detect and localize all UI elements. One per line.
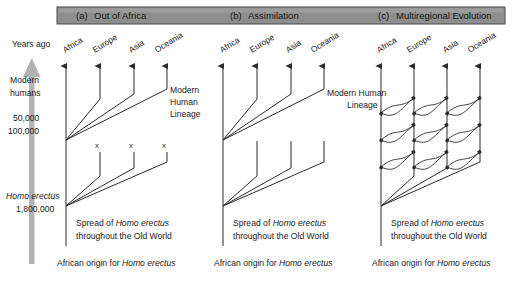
panel-b-region-labels: Africa Europe Asia Oceania <box>218 30 341 55</box>
panel-c-origin-italic: Homo erectus <box>437 258 491 268</box>
svg-text:Spread of Homo erectus: Spread of Homo erectus <box>391 218 485 228</box>
panel-a-lineage-line2: Human <box>170 97 198 107</box>
panel-b-lineage-line2: Lineage <box>347 100 378 110</box>
region-label-africa: Africa <box>218 35 242 55</box>
region-label-africa: Africa <box>61 35 85 55</box>
extinction-x-asia: x <box>129 141 133 150</box>
panel-b: Africa Europe Asia Oceania Modern Human … <box>214 30 386 268</box>
panel-c-origin-caption: African origin for Homo erectus <box>372 258 491 268</box>
panel-b-origin-caption: African origin for Homo erectus <box>214 258 333 268</box>
panel-header-bar: (a) Out of Africa (b) Assimilation (c) M… <box>57 7 505 24</box>
panel-a-spread-line2: throughout the Old World <box>76 231 172 241</box>
panel-b-spread-caption: Spread of Homo erectus throughout the Ol… <box>233 218 329 241</box>
panel-a-origin-roman: African origin for <box>57 258 122 268</box>
svg-text:Spread of Homo erectus: Spread of Homo erectus <box>233 218 327 228</box>
panel-b-origin-roman: African origin for <box>214 258 279 268</box>
panel-a-lineage-line1: Modern <box>170 85 199 95</box>
panel-a-region-labels: Africa Europe Asia Oceania <box>61 30 185 55</box>
panel-b-modern-lineages <box>223 66 324 140</box>
panel-a-tag: (a) <box>76 10 88 21</box>
panel-c-spread-line2: throughout the Old World <box>391 231 487 241</box>
region-label-oceania: Oceania <box>153 30 185 55</box>
panel-b-erectus-branches <box>223 141 324 206</box>
homo-erectus-label: Homo erectus <box>6 191 60 201</box>
panel-c-spread-italic: Homo erectus <box>431 218 485 228</box>
panel-b-tag: (b) <box>230 10 242 21</box>
panel-b-spread-roman: Spread of <box>233 218 273 228</box>
panel-c: Africa Europe Asia Oceania <box>372 30 498 268</box>
time-axis: Years ago Modern humans 50,000 100,000 H… <box>6 39 60 264</box>
panel-a-title: Out of Africa <box>94 10 147 21</box>
panel-a-spread-caption: Spread of Homo erectus throughout the Ol… <box>76 218 172 241</box>
panel-a-spread-italic: Homo erectus <box>116 218 170 228</box>
panel-b-spread-italic: Homo erectus <box>273 218 327 228</box>
region-label-oceania: Oceania <box>309 30 341 55</box>
panel-b-lineage-annotation: Modern Human Lineage <box>327 88 386 110</box>
extinction-x-oceania: x <box>162 141 166 150</box>
panel-b-title: Assimilation <box>248 10 299 21</box>
modern-humans-label-line1: Modern <box>10 75 39 85</box>
panel-a-spread-roman: Spread of <box>76 218 116 228</box>
region-label-africa: Africa <box>375 35 399 55</box>
region-label-europe: Europe <box>248 32 276 55</box>
region-label-oceania: Oceania <box>466 30 498 55</box>
region-label-asia: Asia <box>441 37 460 54</box>
panel-a-modern-lineages <box>66 66 167 140</box>
panel-c-spread-caption: Spread of Homo erectus throughout the Ol… <box>391 218 487 241</box>
panel-c-spread-roman: Spread of <box>391 218 431 228</box>
erectus-date-1800000: 1,800,000 <box>16 204 54 214</box>
panel-b-lineage-line1: Modern Human <box>327 88 386 98</box>
panel-a: Africa Europe Asia Oceania x x x M <box>57 30 201 268</box>
svg-text:Spread of Homo erectus: Spread of Homo erectus <box>76 218 170 228</box>
panel-a-erectus-branches <box>66 152 167 206</box>
region-label-europe: Europe <box>91 32 119 55</box>
extinction-x-europe: x <box>95 141 99 150</box>
region-label-asia: Asia <box>284 37 303 54</box>
panel-c-tag: (c) <box>378 10 389 21</box>
panel-b-origin-italic: Homo erectus <box>279 258 333 268</box>
panel-c-origin-roman: African origin for <box>372 258 437 268</box>
axis-title: Years ago <box>12 39 51 49</box>
panel-a-origin-italic: Homo erectus <box>122 258 176 268</box>
panel-a-lineage-line3: Lineage <box>170 109 201 119</box>
panel-a-extinction-marks: x x x <box>95 141 166 150</box>
panel-c-region-labels: Africa Europe Asia Oceania <box>375 30 498 55</box>
panel-a-lineage-annotation: Modern Human Lineage <box>170 85 201 119</box>
region-label-asia: Asia <box>127 37 146 54</box>
panel-b-spread-line2: throughout the Old World <box>233 231 329 241</box>
panel-a-origin-caption: African origin for Homo erectus <box>57 258 176 268</box>
figure-root: (a) Out of Africa (b) Assimilation (c) M… <box>0 0 520 282</box>
modern-humans-label-line2: humans <box>10 88 41 98</box>
region-label-europe: Europe <box>405 32 433 55</box>
panel-c-gene-flow-curves <box>381 98 480 169</box>
panel-c-title: Multiregional Evolution <box>396 10 492 21</box>
tick-100000: 100,000 <box>8 126 39 136</box>
tick-50000: 50,000 <box>13 113 40 123</box>
